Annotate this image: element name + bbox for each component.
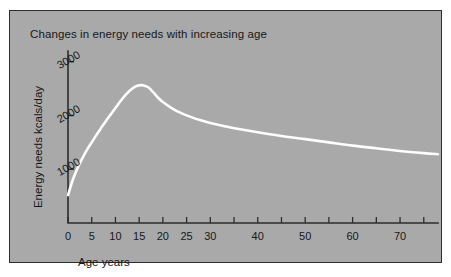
x-tick-label: 5 [89,230,95,242]
chart-panel: Changes in energy needs with increasing … [9,10,442,263]
axis-lines [68,51,438,223]
x-tick-label: 20 [157,230,169,242]
x-tick-label: 30 [204,230,216,242]
energy-needs-curve [68,85,438,195]
x-tick-label: 25 [180,230,192,242]
figure-container: Changes in energy needs with increasing … [0,0,451,277]
axes-group [68,51,438,223]
x-tick-label: 0 [65,230,71,242]
x-tick-label: 10 [109,230,121,242]
x-tick-label: 50 [299,230,311,242]
tick-marks-group [68,62,424,223]
x-tick-label: 60 [346,230,358,242]
data-series-group [68,85,438,195]
x-tick-label: 70 [394,230,406,242]
x-tick-label: 15 [133,230,145,242]
x-tick-label: 40 [252,230,264,242]
